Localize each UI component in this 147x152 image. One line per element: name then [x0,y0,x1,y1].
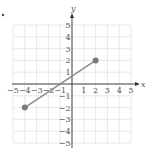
y-tick-label: −3 [59,115,71,124]
x-tick-label: 1 [81,86,86,95]
tick-labels: −5−4−3−2−11234554321−1−2−3−4−5 [7,21,133,148]
x-tick-label: 5 [128,86,133,95]
y-tick-label: −4 [59,127,71,136]
y-tick-label: 3 [65,45,70,54]
y-axis-arrow-icon [70,13,74,18]
x-tick-label: −5 [7,86,19,95]
y-axis-label: y [70,4,76,13]
bullet-marker [2,14,4,16]
y-tick-label: 4 [65,33,70,42]
coordinate-plane: −5−4−3−2−11234554321−1−2−3−4−5 x y [0,0,147,152]
y-tick-label: 5 [65,21,70,30]
y-tick-label: 2 [65,56,70,65]
x-axis-label: x [141,80,146,89]
y-tick-label: 1 [65,68,70,77]
x-tick-label: −2 [43,86,55,95]
x-tick-label: −3 [31,86,43,95]
x-tick-label: 4 [117,86,122,95]
y-tick-label: −5 [59,139,71,148]
endpoint-marker [93,57,99,63]
axes [12,13,140,148]
x-axis-arrow-icon [135,82,140,86]
y-tick-label: −2 [59,104,71,113]
x-tick-label: 3 [105,86,110,95]
x-tick-label: 2 [93,86,98,95]
x-tick-label: −4 [19,86,31,95]
endpoint-marker [22,105,28,111]
y-tick-label: −1 [59,92,71,101]
